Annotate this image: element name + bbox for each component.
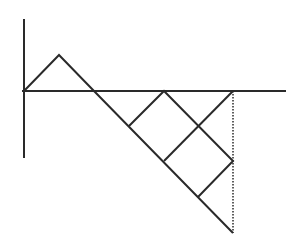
main-zigzag-line (24, 55, 233, 233)
diagram-canvas (0, 0, 303, 250)
diagram-svg (0, 0, 303, 250)
